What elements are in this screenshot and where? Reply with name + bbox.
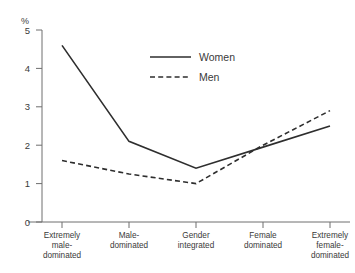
x-tick-label-3-line-0: Female — [249, 231, 277, 240]
x-tick-label-1-line-0: Male- — [119, 231, 140, 240]
x-tick-label-4-line-0: Extremely — [312, 231, 349, 240]
y-tick-label-1: 1 — [25, 178, 30, 189]
legend-label-men: Men — [199, 71, 220, 83]
y-tick-label-3: 3 — [25, 101, 30, 112]
y-tick-label-5: 5 — [25, 25, 30, 36]
x-axis-ticks — [62, 222, 330, 228]
x-axis-category-labels: Extremelymale-dominatedMale-dominatedGen… — [43, 231, 350, 260]
x-tick-label-4-line-1: female- — [316, 241, 344, 250]
x-tick-label-0-line-2: dominated — [43, 251, 82, 260]
series-line-men — [62, 111, 330, 184]
series-line-women — [62, 45, 330, 168]
x-tick-label-0-line-0: Extremely — [44, 231, 81, 240]
x-tick-label-2-line-1: integrated — [178, 241, 215, 250]
y-axis-ticks — [36, 30, 42, 222]
x-tick-label-0-line-1: male- — [52, 241, 73, 250]
line-chart-plot: % 5 4 3 2 1 0 — [0, 0, 355, 273]
chart-container: % 5 4 3 2 1 0 — [0, 0, 355, 273]
x-tick-label-4-line-2: dominated — [311, 251, 350, 260]
x-tick-label-2-line-0: Gender — [182, 231, 210, 240]
y-tick-label-0: 0 — [25, 217, 30, 228]
chart-legend: Women Men — [150, 51, 235, 83]
y-tick-label-2: 2 — [25, 140, 30, 151]
y-axis-tick-labels: 5 4 3 2 1 0 — [25, 25, 30, 228]
x-tick-label-1-line-1: dominated — [110, 241, 149, 250]
x-tick-label-3-line-1: dominated — [244, 241, 283, 250]
y-tick-label-4: 4 — [25, 63, 30, 74]
legend-label-women: Women — [199, 51, 235, 63]
